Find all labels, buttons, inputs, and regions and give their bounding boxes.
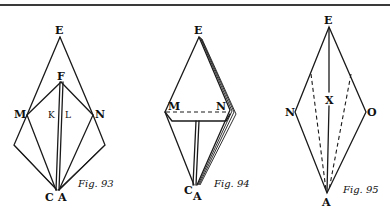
figure-plate: E F M N K L C A Fig. 93 E [0, 0, 390, 217]
fig93-label-M: M [14, 108, 26, 121]
fig94-flap-bar [165, 112, 230, 121]
fig95-label-N: N [285, 106, 295, 119]
fig93-label-K: K [48, 110, 55, 120]
fig94-label-A: A [192, 190, 202, 203]
fig94-label-N: N [216, 100, 226, 113]
figure-93: E F M N K L C A Fig. 93 [14, 24, 114, 204]
fig94-label-C: C [184, 184, 193, 197]
fig95-label-O: O [367, 106, 377, 119]
fig95-caption: Fig. 95 [342, 184, 379, 195]
fig95-dashed-right [329, 74, 351, 190]
fig93-label-N: N [95, 108, 105, 121]
fig95-label-X: X [325, 94, 334, 107]
fig94-label-M: M [168, 100, 180, 113]
fig93-label-E: E [55, 24, 63, 37]
fig94-stem-right [196, 121, 199, 185]
fig95-label-A: A [321, 196, 331, 209]
fig93-inner-left [27, 82, 61, 190]
fig93-label-C: C [45, 191, 54, 204]
diagram-svg: E F M N K L C A Fig. 93 E [0, 0, 390, 217]
fig94-caption: Fig. 94 [213, 178, 250, 189]
fig94-label-E: E [194, 24, 202, 37]
figure-94: E M N C A Fig. 94 [165, 24, 250, 203]
fig93-label-A: A [57, 191, 67, 204]
fig94-right-layer-2 [198, 37, 232, 185]
fig95-rhombus [295, 27, 366, 193]
fig93-label-F: F [57, 70, 65, 83]
fig93-fan-line [14, 145, 57, 190]
fig93-label-L: L [65, 110, 71, 120]
fig94-stem-left [193, 121, 196, 185]
figure-95: E N O X A Fig. 95 [285, 14, 379, 209]
fig95-label-E: E [324, 14, 332, 27]
fig95-center-line-bottom [327, 106, 329, 192]
fig93-caption: Fig. 93 [77, 178, 114, 189]
